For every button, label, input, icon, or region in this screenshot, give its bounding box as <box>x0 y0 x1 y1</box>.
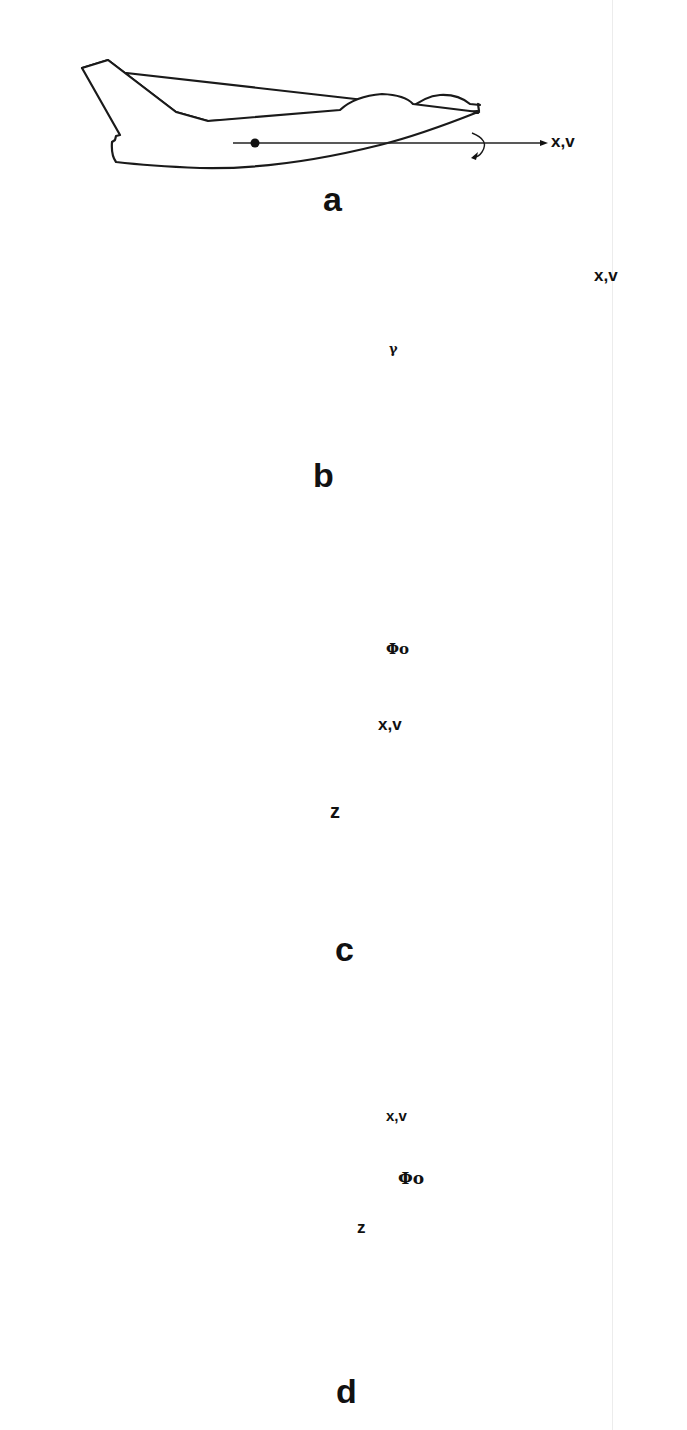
axis-label-d-xv: x,v <box>386 1107 407 1124</box>
phi-label-c: Φo <box>386 640 409 658</box>
axis-label-d-z: z <box>357 1218 366 1238</box>
axis-label-c-xv: x,v <box>378 715 402 735</box>
center-of-gravity-dot-a <box>251 139 260 148</box>
axis-label-a: x,v <box>551 132 575 152</box>
panel-label-a: a <box>323 180 342 219</box>
phi-label-d: Φo <box>398 1168 424 1188</box>
roll-arrow-icon-a <box>472 133 484 157</box>
gamma-label: γ <box>389 341 398 356</box>
panel-a-aircraft <box>82 60 548 168</box>
figure-canvas <box>0 0 687 1430</box>
arrowhead-icon <box>540 140 548 146</box>
axis-label-b: x,v <box>594 266 618 286</box>
panel-label-c: c <box>335 930 354 969</box>
panel-label-d: d <box>336 1372 357 1411</box>
axis-label-c-z: z <box>330 800 340 823</box>
panel-label-b: b <box>313 456 334 495</box>
